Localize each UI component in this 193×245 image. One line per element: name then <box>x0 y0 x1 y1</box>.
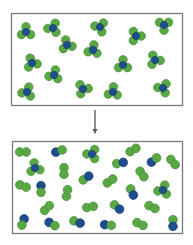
diagram-canvas <box>0 0 193 245</box>
tetrahedral-molecule <box>42 16 65 38</box>
tetrahedral-molecule <box>152 75 176 99</box>
green-blue-molecule <box>68 215 85 229</box>
green-diatomic-molecule <box>15 148 30 157</box>
tetrahedral-molecule <box>83 39 103 58</box>
green-atom <box>60 170 69 179</box>
tetrahedral-molecule <box>152 178 174 199</box>
reactant-molecules <box>16 13 176 102</box>
product-molecules <box>14 141 181 231</box>
tetrahedral-molecule <box>56 34 77 54</box>
reaction-arrow-icon <box>93 110 98 134</box>
blue-atom <box>119 61 126 68</box>
green-diatomic-molecule <box>82 201 99 212</box>
tetrahedral-molecule <box>104 82 123 100</box>
green-blue-molecule <box>16 213 30 230</box>
green-blue-molecule <box>169 215 178 230</box>
green-blue-molecule <box>100 220 116 230</box>
green-diatomic-molecule <box>165 153 182 170</box>
tetrahedral-molecule <box>81 141 104 164</box>
tetrahedral-molecule <box>44 64 65 84</box>
tetrahedral-molecule <box>114 56 132 72</box>
tetrahedral-molecule <box>16 80 38 101</box>
reaction-diagram <box>0 0 193 245</box>
tetrahedral-molecule <box>70 76 94 100</box>
tetrahedral-molecule <box>124 23 147 46</box>
green-blue-molecule <box>77 170 95 186</box>
green-blue-molecule <box>108 199 125 216</box>
green-diatomic-molecule <box>61 185 72 202</box>
green-diatomic-molecule <box>60 163 69 178</box>
tetrahedral-molecule <box>89 14 113 38</box>
green-blue-molecule <box>145 152 162 169</box>
tetrahedral-molecule <box>154 13 177 36</box>
green-blue-molecule <box>43 216 61 231</box>
green-diatomic-molecule <box>134 165 150 183</box>
green-diatomic-molecule <box>143 200 161 214</box>
green-blue-molecule <box>37 181 46 196</box>
tetrahedral-molecule <box>17 23 35 39</box>
tetrahedral-molecule <box>20 51 42 72</box>
green-diatomic-molecule <box>38 199 55 216</box>
green-blue-molecule <box>50 144 67 158</box>
green-atom <box>22 148 31 157</box>
green-blue-molecule <box>125 183 139 201</box>
green-diatomic-molecule <box>101 173 119 189</box>
tetrahedral-molecule <box>143 48 166 70</box>
green-diatomic-molecule <box>14 179 31 193</box>
blue-atom <box>22 28 29 35</box>
green-diatomic-molecule <box>131 217 149 231</box>
tetrahedral-molecule <box>25 157 45 176</box>
green-diatomic-molecule <box>124 142 142 157</box>
blue-atom <box>109 88 117 96</box>
green-blue-molecule <box>112 157 129 168</box>
green-atom <box>37 188 46 197</box>
blue-atom <box>169 222 178 231</box>
